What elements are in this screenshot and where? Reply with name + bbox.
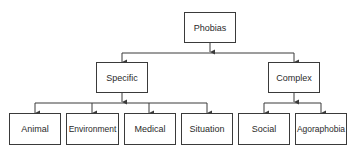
- node-label: Environment: [69, 124, 117, 134]
- node-label: Specific: [106, 73, 138, 83]
- node-environment: Environment: [66, 113, 119, 145]
- node-label: Medical: [134, 124, 165, 134]
- node-social: Social: [238, 113, 290, 145]
- node-medical: Medical: [124, 113, 176, 145]
- node-label: Complex: [276, 73, 312, 83]
- node-complex: Complex: [268, 62, 320, 93]
- node-label: Agoraphobia: [297, 124, 345, 134]
- node-animal: Animal: [9, 113, 61, 145]
- node-phobias: Phobias: [184, 12, 236, 43]
- node-specific: Specific: [96, 62, 148, 93]
- node-label: Situation: [189, 124, 224, 134]
- node-agoraphobia: Agoraphobia: [295, 113, 347, 145]
- node-label: Animal: [21, 124, 49, 134]
- node-label: Social: [252, 124, 277, 134]
- node-label: Phobias: [194, 23, 227, 33]
- node-situation: Situation: [181, 113, 233, 145]
